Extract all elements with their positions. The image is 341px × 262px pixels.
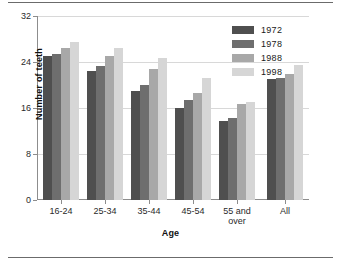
bar-1978 — [52, 54, 61, 200]
bar-1998 — [294, 65, 303, 200]
legend-swatch-icon — [232, 26, 254, 34]
bar-1972 — [43, 56, 52, 200]
bar-1998 — [114, 48, 123, 200]
legend-item-1988[interactable]: 1988 — [232, 53, 282, 63]
bar-1988 — [285, 74, 294, 201]
bar-1998 — [70, 42, 79, 200]
y-tick-label: 24 — [21, 57, 31, 67]
y-tick-label: 8 — [26, 149, 31, 159]
bar-group — [130, 16, 168, 200]
y-tick-label: 16 — [21, 103, 31, 113]
legend-item-1978[interactable]: 1978 — [232, 39, 282, 49]
bar-1972 — [131, 91, 140, 200]
legend-label: 1978 — [261, 39, 282, 49]
bar-1978 — [140, 85, 149, 200]
x-tick-mark — [193, 200, 194, 204]
bar-1972 — [175, 108, 184, 200]
x-tick-mark — [105, 200, 106, 204]
x-tick-mark — [149, 200, 150, 204]
bar-1978 — [96, 66, 105, 200]
bar-1978 — [228, 118, 237, 200]
legend-swatch-icon — [232, 40, 254, 48]
y-tick-mark — [33, 154, 37, 155]
x-tick-mark — [237, 200, 238, 204]
y-tick-label: 0 — [26, 195, 31, 205]
y-tick-label: 32 — [21, 11, 31, 21]
top-divider-rule — [8, 2, 333, 3]
y-axis-title: Number of teeth — [34, 48, 44, 120]
legend-swatch-icon — [232, 68, 254, 76]
x-tick-mark — [285, 200, 286, 204]
bottom-divider-rule — [8, 257, 333, 258]
y-tick-mark — [33, 16, 37, 17]
bar-1972 — [219, 121, 228, 200]
bar-1998 — [158, 58, 167, 200]
bar-group — [86, 16, 124, 200]
bar-1978 — [276, 78, 285, 200]
x-axis-title: Age — [0, 228, 341, 238]
legend-item-1972[interactable]: 1972 — [232, 25, 282, 35]
bar-group — [42, 16, 80, 200]
x-tick-mark — [61, 200, 62, 204]
y-tick-mark — [33, 200, 37, 201]
legend-label: 1988 — [261, 53, 282, 63]
bar-1988 — [61, 48, 70, 200]
chart-figure: 08162432 16-2425-3435-4445-5455 and over… — [0, 0, 341, 262]
legend-label: 1998 — [261, 67, 282, 77]
bar-1998 — [202, 78, 211, 200]
bar-1988 — [193, 93, 202, 200]
bar-1978 — [184, 100, 193, 200]
bar-1988 — [105, 56, 114, 200]
bar-1998 — [246, 102, 255, 200]
bar-1988 — [237, 104, 246, 200]
legend-item-1998[interactable]: 1998 — [232, 67, 282, 77]
x-tick-label: All — [257, 206, 313, 216]
legend-swatch-icon — [232, 54, 254, 62]
legend-label: 1972 — [261, 25, 282, 35]
bar-1972 — [87, 71, 96, 200]
chart-legend: 1972197819881998 — [232, 25, 282, 77]
bar-group — [174, 16, 212, 200]
bar-1972 — [267, 79, 276, 200]
bar-1988 — [149, 69, 158, 200]
